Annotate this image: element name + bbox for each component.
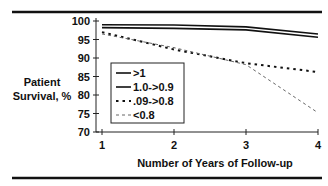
y-tick-label: 100 xyxy=(72,15,90,27)
legend-label: 1.0->0.9 xyxy=(133,81,174,93)
x-axis-title: Number of Years of Follow-up xyxy=(137,157,293,169)
legend-label: >1 xyxy=(133,67,146,79)
legend-label: .09->0.8 xyxy=(133,95,174,107)
x-tick-label: 2 xyxy=(171,139,177,151)
x-tick-label: 3 xyxy=(243,139,249,151)
x-tick-label: 4 xyxy=(315,139,322,151)
x-tick-label: 1 xyxy=(99,139,105,151)
legend-label: <0.8 xyxy=(133,109,155,121)
legend: >11.0->0.9.09->0.8<0.8 xyxy=(111,63,184,123)
y-tick-label: 85 xyxy=(78,71,90,83)
y-axis-title-line2: Survival, % xyxy=(13,90,72,102)
y-tick-label: 80 xyxy=(78,89,90,101)
y-axis-title-line1: Patient xyxy=(24,76,61,88)
y-tick-label: 95 xyxy=(78,34,90,46)
y-tick-label: 90 xyxy=(78,52,90,64)
y-tick-label: 70 xyxy=(78,126,90,138)
y-tick-label: 75 xyxy=(78,108,90,120)
survival-chart: 1009590858075701234 >11.0->0.9.09->0.8<0… xyxy=(0,0,328,186)
series-line-1 xyxy=(102,28,318,38)
